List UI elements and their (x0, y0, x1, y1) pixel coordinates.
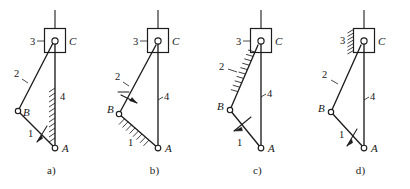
mechanism-panel-d: 2 3 4 1 C B A d) (309, 0, 410, 189)
label-link-3-c: 3 (236, 36, 241, 47)
link-2-d (331, 45, 361, 112)
ground-hatching-b (119, 119, 149, 146)
label-joint-b-d: B (318, 102, 325, 114)
pin-joint-c-a (52, 38, 58, 44)
mechanism-diagram-c: 2 3 4 1 C B A (206, 0, 309, 168)
pin-joint-a-b (155, 145, 161, 151)
pin-joint-c-b (155, 38, 161, 44)
driver-arrow-c (234, 117, 251, 131)
label-link-2-a: 2 (14, 68, 19, 79)
link-1-d (331, 112, 364, 148)
link-2-b (119, 45, 156, 114)
pin-joint-a-a (52, 145, 58, 151)
label-joint-c-d: C (378, 35, 386, 47)
pin-joint-a-c (258, 145, 264, 151)
mechanism-panel-a: 2 3 4 1 C B A a) (0, 0, 103, 189)
pin-joint-b-b (116, 111, 121, 116)
pin-joint-c-c (258, 38, 264, 44)
label-link-4-d: 4 (370, 91, 376, 102)
driver-arrow-a (37, 126, 47, 142)
mechanism-diagram-d: 2 3 4 1 C B A (309, 0, 410, 168)
label-joint-b-a: B (23, 106, 30, 118)
pin-joint-a-d (361, 145, 367, 151)
figure-sheet: 2 3 4 1 C B A a) (0, 0, 410, 189)
link-2-c (230, 45, 258, 110)
mechanism-panel-c: 2 3 4 1 C B A c) (206, 0, 309, 189)
leader-link-2-d (331, 80, 338, 84)
label-joint-a-a: A (61, 142, 69, 154)
mechanism-panel-b: 2 3 4 1 C B A b) (103, 0, 206, 189)
leader-link-4-d (364, 97, 369, 100)
label-link-2-c: 2 (219, 61, 224, 72)
pin-joint-b-d (328, 109, 333, 114)
label-link-4-c: 4 (267, 88, 273, 99)
ground-hatching-d (348, 30, 354, 55)
panel-caption-d: d) (309, 164, 410, 176)
leader-link-2-a (22, 79, 28, 83)
panel-caption-a: a) (0, 164, 103, 176)
label-joint-a-c: A (267, 142, 275, 154)
ground-hatching-a (49, 88, 55, 142)
label-link-1-c: 1 (237, 137, 242, 148)
leader-link-4-c (261, 94, 266, 97)
panel-caption-c: c) (206, 164, 309, 176)
link-2-a (18, 43, 53, 111)
label-joint-a-d: A (370, 142, 378, 154)
label-link-3-a: 3 (30, 36, 35, 47)
label-link-1-d: 1 (339, 129, 344, 140)
label-joint-a-b: A (164, 142, 172, 154)
label-link-3-b: 3 (133, 36, 138, 47)
pin-joint-c-d (361, 38, 367, 44)
label-link-3-d: 3 (340, 35, 345, 46)
mechanism-diagram-b: 2 3 4 1 C B A (103, 0, 206, 168)
label-link-4-a: 4 (60, 91, 66, 102)
label-joint-b-b: B (107, 103, 114, 115)
label-link-2-b: 2 (115, 71, 120, 82)
leader-link-2-b (123, 82, 129, 86)
label-link-1-a: 1 (28, 128, 33, 139)
pin-joint-b-a (15, 108, 20, 113)
label-link-4-b: 4 (164, 91, 170, 102)
panel-caption-b: b) (103, 164, 206, 176)
label-joint-c-b: C (172, 35, 180, 47)
link-1-c (230, 110, 261, 148)
label-link-2-d: 2 (322, 69, 327, 80)
label-joint-c-c: C (275, 35, 283, 47)
mechanism-diagram-a: 2 3 4 1 C B A (0, 0, 103, 168)
pin-joint-b-c (227, 107, 232, 112)
label-link-1-b: 1 (128, 137, 133, 148)
label-joint-c-a: C (69, 35, 77, 47)
label-joint-b-c: B (217, 100, 224, 112)
leader-link-2-c (228, 69, 237, 72)
leader-link-4-b (158, 97, 163, 100)
